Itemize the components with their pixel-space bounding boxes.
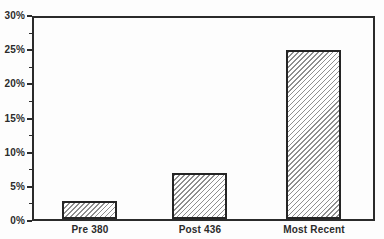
bar-most-recent <box>286 50 341 219</box>
y-tick-label: 20% <box>0 78 25 90</box>
y-axis-minor-tick <box>29 101 32 102</box>
y-axis-major-tick <box>27 118 32 120</box>
y-axis-minor-tick <box>29 33 32 34</box>
y-tick-label: 0% <box>0 215 25 227</box>
y-tick-label: 10% <box>0 147 25 159</box>
bar-chart: 0%5%10%15%20%25%30% Pre 380Post 436Most … <box>0 0 384 239</box>
x-category-label: Post 436 <box>155 224 245 236</box>
y-axis-major-tick <box>27 83 32 85</box>
y-tick-label: 30% <box>0 10 25 22</box>
y-axis-major-tick <box>27 15 32 17</box>
y-axis-minor-tick <box>29 203 32 204</box>
y-tick-label: 5% <box>0 181 25 193</box>
y-tick-label: 25% <box>0 44 25 56</box>
y-axis-major-tick <box>27 49 32 51</box>
y-axis-major-tick <box>27 220 32 222</box>
x-category-label: Pre 380 <box>45 224 135 236</box>
bar-post-436 <box>172 173 227 219</box>
x-category-label: Most Recent <box>269 224 359 236</box>
y-axis-minor-tick <box>29 67 32 68</box>
y-axis-major-tick <box>27 152 32 154</box>
y-axis-minor-tick <box>29 135 32 136</box>
y-tick-label: 15% <box>0 113 25 125</box>
y-axis-minor-tick <box>29 169 32 170</box>
y-axis-major-tick <box>27 186 32 188</box>
bar-pre-380 <box>62 201 117 220</box>
